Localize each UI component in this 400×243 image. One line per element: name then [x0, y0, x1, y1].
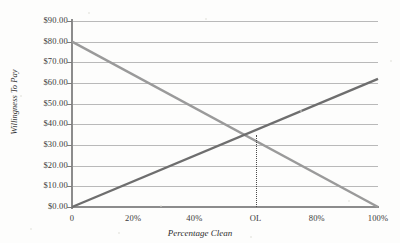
scan-speck: [20, 95, 22, 97]
scan-speck: [30, 228, 32, 230]
scan-speck: [390, 60, 392, 62]
optimal-level-dotted-line: [256, 135, 257, 207]
scan-speck: [205, 18, 207, 20]
scan-speck: [250, 236, 252, 238]
scan-speck: [88, 12, 90, 14]
scan-speck: [160, 205, 162, 207]
x-axis-title: Percentage Clean: [0, 228, 400, 238]
series-line-marginal-cost: [72, 79, 378, 207]
series-lines: [0, 0, 400, 243]
series-line-marginal-benefit: [72, 42, 378, 207]
scan-speck: [348, 200, 350, 202]
scan-speck: [300, 110, 302, 112]
chart-container: $90.00$80.00$70.00$60.00$50.00$40.00$30.…: [0, 0, 400, 243]
y-axis-title: Willingness To Pay: [9, 42, 19, 162]
scan-speck: [118, 232, 120, 234]
